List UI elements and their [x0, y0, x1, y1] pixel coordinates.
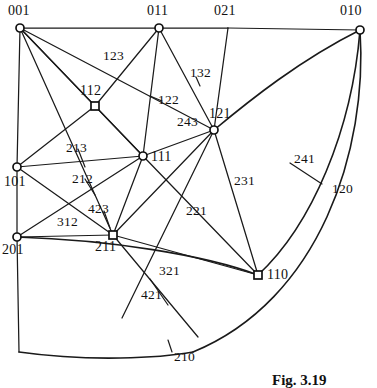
edge-label-213: 213: [66, 141, 87, 155]
edge-021-010: [228, 28, 360, 30]
edge-label-123: 123: [103, 49, 124, 63]
edge-label-312: 312: [57, 215, 78, 229]
node-label-121: 121: [209, 107, 231, 121]
edge-group-interior: [17, 106, 258, 337]
node-marker-211[interactable]: [109, 231, 117, 239]
figure-caption: Fig. 3.19: [272, 372, 327, 388]
node-marker-121[interactable]: [210, 126, 218, 134]
node-marker-201[interactable]: [13, 233, 21, 241]
node-marker-101[interactable]: [13, 163, 21, 171]
tick-210: [168, 340, 172, 352]
edge-label-423: 423: [88, 202, 109, 216]
node-marker-111[interactable]: [139, 152, 147, 160]
node-label-021: 021: [214, 4, 236, 18]
node-label-101: 101: [4, 175, 26, 189]
node-label-010: 010: [340, 4, 362, 18]
edge-201-110-curve: [17, 237, 258, 275]
edge-label-210: 210: [174, 350, 195, 364]
edge-001-101: [17, 28, 20, 167]
node-marker-112[interactable]: [91, 102, 99, 110]
edge-label-321: 321: [159, 264, 180, 278]
edge-label-231: 231: [234, 174, 255, 188]
node-label-201: 201: [2, 243, 24, 257]
graph-diagram-canvas: [0, 0, 377, 388]
edge-label-122: 122: [158, 93, 179, 107]
edge-label-120: 120: [332, 182, 353, 196]
edge-011-112: [95, 28, 159, 106]
node-label-011: 011: [147, 4, 168, 18]
edge-label-241: 241: [294, 152, 315, 166]
node-label-001: 001: [8, 4, 30, 18]
edge-111-101: [17, 156, 143, 167]
edge-121-110: [214, 130, 258, 275]
node-marker-011[interactable]: [155, 24, 163, 32]
edge-112-101: [17, 106, 95, 167]
edge-121-211: [113, 130, 214, 235]
node-label-211: 211: [95, 240, 116, 254]
tick-241: [290, 163, 322, 184]
edge-010-121-curve: [214, 30, 360, 130]
node-marker-001[interactable]: [16, 24, 24, 32]
node-marker-010[interactable]: [356, 26, 364, 34]
edge-201-211: [17, 235, 113, 237]
edge-label-132: 132: [190, 66, 211, 80]
figure-container: 001 011 021 010 112 121 111 101 201 211 …: [0, 0, 377, 388]
edge-label-243: 243: [177, 115, 198, 129]
edge-label-221: 221: [186, 204, 207, 218]
edge-011-111: [143, 28, 159, 156]
node-label-111: 111: [151, 150, 172, 164]
edge-label-212: 212: [72, 172, 93, 186]
edge-112-111: [95, 106, 143, 156]
node-label-112: 112: [80, 84, 101, 98]
node-label-110: 110: [267, 268, 288, 282]
edge-111-201: [17, 156, 143, 237]
edge-group-outer-boundary: [17, 28, 360, 352]
node-marker-110[interactable]: [254, 271, 262, 279]
edge-111-211: [113, 156, 143, 235]
edge-label-421: 421: [141, 288, 162, 302]
edge-bottom-arc-210: [19, 352, 193, 358]
